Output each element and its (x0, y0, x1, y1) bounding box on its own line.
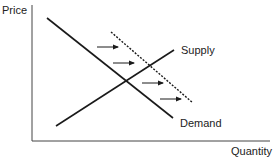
x-axis-label: Quantity (231, 146, 272, 157)
supply-demand-diagram: Price Quantity Supply Demand (0, 0, 276, 157)
demand-label: Demand (180, 118, 222, 129)
diagram-canvas (0, 0, 276, 157)
supply-label: Supply (181, 45, 215, 56)
y-axis-label: Price (2, 5, 27, 16)
demand-curve (47, 18, 173, 118)
supply-curve (56, 50, 174, 126)
shifted-demand-curve (111, 32, 193, 103)
